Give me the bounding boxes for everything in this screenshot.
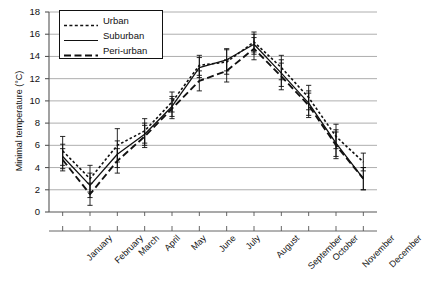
y-tick-label: 6 [18,139,40,150]
legend-swatch-peri-urban [64,46,98,55]
y-tick-label: 14 [18,50,40,61]
y-tick-label: 10 [18,95,40,106]
y-tick-label: 18 [18,6,40,17]
y-tick-label: 16 [18,28,40,39]
legend-item-peri-urban: Peri-urban [60,43,162,58]
y-tick-label: 8 [18,117,40,128]
y-tick-label: 4 [18,162,40,173]
y-tick-label: 0 [18,206,40,217]
y-tick-label: 12 [18,73,40,84]
legend-item-urban: Urban [60,13,162,28]
legend-label-peri-urban: Peri-urban [103,46,147,56]
legend-label-suburban: Suburban [103,31,144,41]
chart-legend: Urban Suburban Peri-urban [59,10,163,59]
y-tick-label: 2 [18,184,40,195]
legend-label-urban: Urban [103,16,129,26]
legend-swatch-suburban [64,31,98,40]
legend-item-suburban: Suburban [60,28,162,43]
legend-swatch-urban [64,16,98,25]
